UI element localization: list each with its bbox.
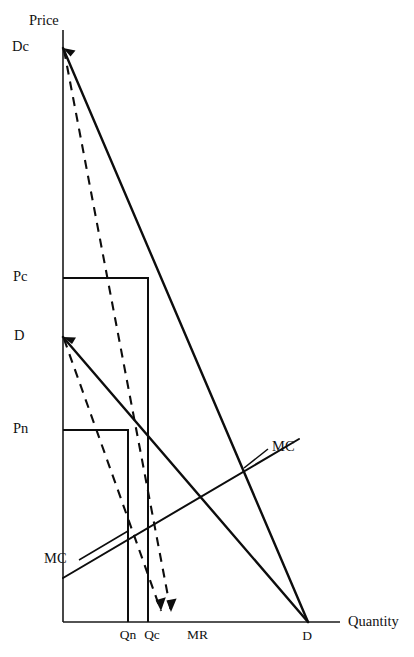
d-axis-intercept-label: D [302,628,312,643]
labels-group: Price Quantity Dc D Pc Pn Qn Qc MR D MC … [12,12,399,643]
mc-lower-leader-line [79,531,128,560]
mr-curve-label: MR [187,627,208,642]
pc-price-label: Pc [13,268,28,284]
mc-curve [63,439,299,578]
y-axis-title: Price [29,12,59,28]
marginal-cost-group [63,439,299,578]
d-curve-label: D [14,327,24,343]
economics-diagram-figure: Price Quantity Dc D Pc Pn Qn Qc MR D MC … [0,0,414,657]
mc-upper-label: MC [272,438,295,454]
mc-lower-label: MC [44,550,67,566]
mr-new-dashed-line [64,339,161,611]
d-demand-curve [63,337,308,622]
marginal-revenue-group [64,50,177,612]
diagram-canvas: Price Quantity Dc D Pc Pn Qn Qc MR D MC … [0,0,414,657]
qn-quantity-label: Qn [120,627,137,642]
pn-price-label: Pn [13,420,29,436]
mr-competitive-arrowhead [166,599,176,612]
dc-demand-curve [63,48,308,622]
demand-curves-group [63,48,308,622]
mr-competitive-dashed-line [64,50,171,612]
x-axis-title: Quantity [348,613,399,629]
qc-quantity-label: Qc [144,627,160,642]
dc-curve-label: Dc [12,38,29,54]
axes-group [63,30,340,622]
